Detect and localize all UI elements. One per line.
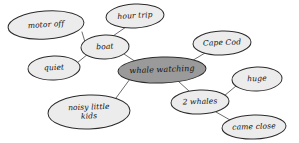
concept-map-edge xyxy=(178,81,189,91)
concept-node-cape-cod[interactable]: Cape Cod xyxy=(193,30,252,56)
node-label: hour trip xyxy=(117,10,153,21)
node-layer: motor offhour tripboatCape Codquietwhale… xyxy=(7,2,286,140)
node-label: Cape Cod xyxy=(203,37,241,47)
concept-map-edge xyxy=(82,32,85,42)
node-label: boat xyxy=(96,42,115,52)
concept-map-edge xyxy=(116,79,130,98)
concept-map-edge xyxy=(113,27,126,36)
concept-map-canvas: motor offhour tripboatCape Codquietwhale… xyxy=(0,0,299,143)
node-label: quiet xyxy=(44,63,65,73)
concept-node-came-close[interactable]: came close xyxy=(222,114,287,140)
concept-node-whale-watching[interactable]: whale watching xyxy=(118,55,207,84)
node-label: huge xyxy=(247,74,267,84)
concept-node-motor-off[interactable]: motor off xyxy=(7,8,85,41)
concept-map-edge xyxy=(216,112,230,120)
concept-node-noisy-little-kids[interactable]: noisy littlekids xyxy=(47,94,130,131)
node-label: 2 whales xyxy=(181,96,217,106)
concept-node-hour-trip[interactable]: hour trip xyxy=(105,2,164,29)
concept-node-two-whales[interactable]: 2 whales xyxy=(171,89,230,115)
concept-node-quiet[interactable]: quiet xyxy=(28,55,81,81)
node-label: came close xyxy=(232,121,276,132)
concept-node-huge[interactable]: huge xyxy=(232,66,283,92)
concept-map-svg: motor offhour tripboatCape Codquietwhale… xyxy=(0,0,299,143)
concept-node-boat[interactable]: boat xyxy=(81,34,130,60)
concept-map-edge xyxy=(224,86,236,96)
